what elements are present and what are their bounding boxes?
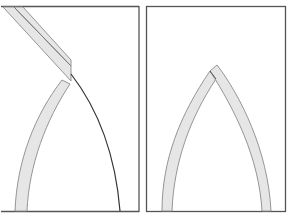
left-arch-band	[162, 71, 216, 211]
curved-arch-band	[15, 80, 70, 211]
diagram-svg	[0, 0, 287, 219]
diagonal-band-centerline	[14, 7, 71, 66]
diagram-figure	[0, 0, 287, 219]
diagonal-band	[3, 7, 71, 81]
thin-dark-curve	[71, 74, 120, 211]
right-panel	[147, 7, 286, 212]
left-panel	[1, 6, 139, 212]
right-arch-band	[210, 65, 271, 211]
